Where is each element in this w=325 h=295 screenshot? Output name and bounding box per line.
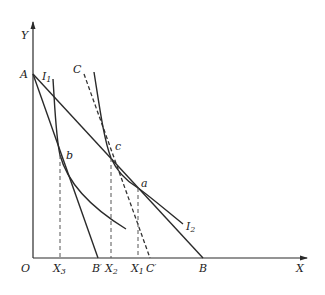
origin-label: O xyxy=(21,262,30,275)
tick-x3: X3 xyxy=(52,262,66,276)
point-a-upper-label: A xyxy=(19,68,28,81)
diagram-canvas: Y X O A b c a I1 I2 C X3 B′ X2 X1 C′ B xyxy=(0,0,325,295)
curve-i1-label: I1 xyxy=(41,70,51,84)
y-axis-label: Y xyxy=(21,29,30,42)
budget-line-ab-prime xyxy=(33,74,98,258)
curve-i2-label: I2 xyxy=(185,220,195,234)
indifference-curve-i2 xyxy=(94,72,183,224)
indifference-curve-i1 xyxy=(53,79,126,229)
figure-caption-faint xyxy=(40,281,285,285)
point-b-label: b xyxy=(66,149,73,162)
tick-c-prime: C′ xyxy=(146,262,156,275)
line-c-label: C xyxy=(73,63,82,76)
tick-x1: X1 xyxy=(130,262,144,276)
budget-line-ab xyxy=(33,74,203,258)
x-axis-label: X xyxy=(295,262,305,275)
point-c-label: c xyxy=(115,140,121,153)
tick-b: B xyxy=(198,262,207,275)
point-a-label: a xyxy=(141,177,148,190)
compensated-budget-line-cc-prime xyxy=(84,74,150,258)
tick-b-prime: B′ xyxy=(91,262,102,275)
tick-x2: X2 xyxy=(104,262,118,276)
